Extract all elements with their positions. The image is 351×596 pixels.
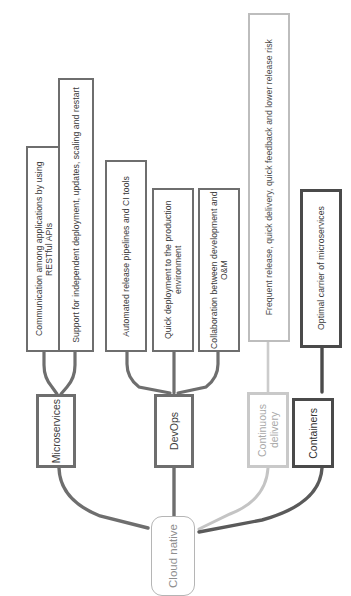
pillar-box-containers[interactable]: Containers xyxy=(292,398,334,468)
attribute-box-collaboration[interactable]: Collaboration between development and O&… xyxy=(198,188,240,352)
link-attr1-microservices xyxy=(44,352,57,394)
diagram-canvas: Communication among applications by usin… xyxy=(0,0,351,596)
attribute-box-communication[interactable]: Communication among applications by usin… xyxy=(26,146,62,352)
pillar-label: Continuous delivery xyxy=(256,395,281,465)
pillar-box-continuous-delivery[interactable]: Continuous delivery xyxy=(247,392,289,468)
pillar-box-microservices[interactable]: Microservices xyxy=(36,394,76,468)
link-attr3-devops xyxy=(127,352,170,393)
link-microservices-root xyxy=(59,468,148,528)
pillar-label: Microservices xyxy=(50,399,62,463)
attribute-box-quick-deployment[interactable]: Quick deployment to the production envir… xyxy=(152,188,194,352)
pillar-label: DevOps xyxy=(168,412,180,450)
link-attr5-devops xyxy=(178,352,218,393)
attribute-box-frequent-release[interactable]: Frequent release, quick delivery, quick … xyxy=(248,13,290,342)
link-continuous-delivery-root xyxy=(199,468,268,529)
link-containers-root xyxy=(199,468,322,532)
pillar-label: Containers xyxy=(307,408,319,459)
attribute-box-optimal-carrier[interactable]: Optimal carrier of microservices xyxy=(300,189,342,348)
attribute-label: Quick deployment to the production envir… xyxy=(163,190,183,350)
attribute-label: Support for independent deployment, upda… xyxy=(71,87,81,343)
attribute-label: Automated release pipelines and CI tools xyxy=(121,176,131,337)
link-attr2-microservices xyxy=(61,352,75,394)
attribute-label: Communication among applications by usin… xyxy=(34,148,54,350)
attribute-label: Frequent release, quick delivery, quick … xyxy=(264,39,274,315)
attribute-label: Collaboration between development and O&… xyxy=(209,190,229,350)
attribute-box-independent-deployment[interactable]: Support for independent deployment, upda… xyxy=(58,78,94,352)
pillar-box-devops[interactable]: DevOps xyxy=(154,394,194,468)
root-label: Cloud native xyxy=(167,524,179,588)
attribute-label: Optimal carrier of microservices xyxy=(316,206,326,330)
attribute-box-release-pipelines[interactable]: Automated release pipelines and CI tools xyxy=(105,160,147,352)
root-box-cloud-native[interactable]: Cloud native xyxy=(151,516,195,596)
